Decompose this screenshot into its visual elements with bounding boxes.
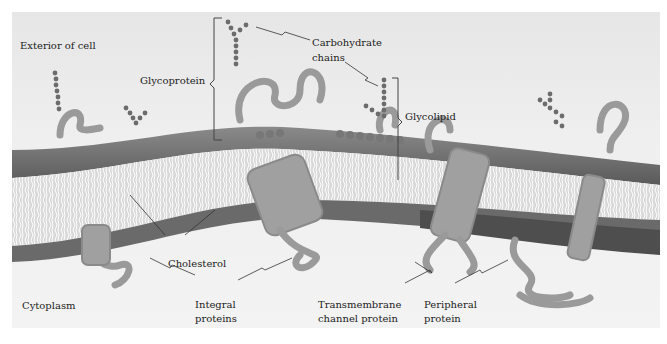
glycoprotein-bracket <box>210 18 222 140</box>
label-carbohydrate-line1: Carbohydrate <box>312 37 382 49</box>
label-integral-line2: proteins <box>195 313 237 325</box>
label-integral-line1: Integral <box>195 299 236 311</box>
label-cytoplasm: Cytoplasm <box>22 300 76 312</box>
label-glycoprotein: Glycoprotein <box>140 75 205 87</box>
label-peripheral-line2: protein <box>424 313 461 325</box>
label-transmembrane-line2: channel protein <box>318 313 398 325</box>
label-peripheral-line1: Peripheral <box>424 299 477 311</box>
label-exterior-of-cell: Exterior of cell <box>20 40 96 52</box>
label-transmembrane-line1: Transmembrane <box>318 299 401 311</box>
label-glycolipid: Glycolipid <box>405 111 456 123</box>
label-cholesterol: Cholesterol <box>168 258 226 270</box>
label-carbohydrate-line2: chains <box>312 52 345 64</box>
